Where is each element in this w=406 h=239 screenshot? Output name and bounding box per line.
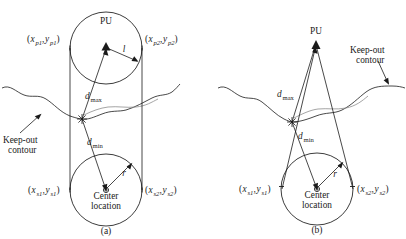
svg-text:,: , <box>43 185 45 195</box>
center-label-b-line1: Center <box>305 190 331 200</box>
pu-marker-b <box>312 40 321 49</box>
coord-p2-label-a: ( x p2 , y p2 ) <box>145 34 178 46</box>
coord-s2-label-a: ( x s2 , y s2 ) <box>145 185 177 197</box>
keep-out-label-a-line2: contour <box>8 145 37 155</box>
keep-out-contour-b-right <box>292 86 405 122</box>
panel-b-caption: (b) <box>311 225 322 236</box>
d-max-label-a: d max <box>85 91 103 103</box>
keep-out-label-b-line2: contour <box>356 55 385 65</box>
tangent-line-b-left <box>282 45 316 189</box>
svg-text:): ) <box>268 184 271 195</box>
d-min-line-b <box>292 122 317 189</box>
d-min-label-b: d min <box>298 131 314 143</box>
radius-r-arrowhead-a <box>127 163 133 170</box>
radius-r-line-a <box>106 164 131 189</box>
radius-r-label-b: r <box>333 169 337 179</box>
svg-text:p1: p1 <box>35 39 43 46</box>
svg-text:max: max <box>283 94 295 101</box>
svg-text:max: max <box>91 96 103 103</box>
svg-text:,: , <box>42 34 44 44</box>
pu-label-a: PU <box>100 16 112 26</box>
svg-text:): ) <box>386 184 389 195</box>
keep-out-label-b-line1: Keep-out <box>350 45 385 55</box>
panel-a: PU l r d max d min Keep-out contour Cent… <box>2 12 180 237</box>
svg-text:,: , <box>254 184 256 194</box>
panel-b: PU r d max d min Keep-out contour Center… <box>218 26 405 236</box>
radius-r-line-b <box>317 163 342 188</box>
center-label-a-line2: location <box>91 201 121 211</box>
svg-text:): ) <box>57 34 60 45</box>
keep-out-label-a-line1: Keep-out <box>3 135 38 145</box>
coord-s2-label-b: ( x s2 , y s2 ) <box>357 184 389 196</box>
svg-text:,: , <box>160 34 162 44</box>
svg-text:d: d <box>85 91 90 101</box>
svg-text:s1: s1 <box>262 189 268 196</box>
intersection-star-a <box>77 114 87 124</box>
figure-svg: PU l r d max d min Keep-out contour Cent… <box>0 0 406 239</box>
radius-r-arrowhead-b <box>338 162 344 169</box>
svg-text:d: d <box>277 89 282 99</box>
svg-text:): ) <box>57 185 60 196</box>
keep-out-pointer-arrowhead-b <box>384 78 389 85</box>
svg-text:): ) <box>174 185 177 196</box>
svg-text:,: , <box>160 185 162 195</box>
center-label-b-line2: location <box>302 200 332 210</box>
svg-text:min: min <box>93 142 104 149</box>
svg-text:min: min <box>304 136 315 143</box>
svg-text:): ) <box>175 34 178 45</box>
coord-s1-label-a: ( x s1 , y s1 ) <box>28 185 60 197</box>
svg-text:s1: s1 <box>51 190 57 197</box>
panel-a-caption: (a) <box>101 226 112 237</box>
pu-label-b: PU <box>310 26 322 36</box>
d-min-label-a: d min <box>87 137 103 149</box>
coord-p1-label-a: ( x p1 , y p1 ) <box>27 34 60 46</box>
figure-container: PU l r d max d min Keep-out contour Cent… <box>0 0 406 239</box>
d-max-label-b: d max <box>277 89 295 101</box>
svg-text:p1: p1 <box>49 39 57 46</box>
svg-text:d: d <box>87 137 92 147</box>
svg-text:,: , <box>372 184 374 194</box>
intersection-star-b <box>287 117 297 127</box>
center-label-a-line1: Center <box>94 191 120 201</box>
tangent-line-b-right <box>316 45 353 189</box>
svg-text:s1: s1 <box>37 190 43 197</box>
svg-text:s1: s1 <box>248 189 254 196</box>
coord-s1-label-b: ( x s1 , y s1 ) <box>239 184 271 196</box>
radius-l-label-a: l <box>123 44 126 54</box>
svg-text:d: d <box>298 131 303 141</box>
radius-r-label-a: r <box>122 168 126 178</box>
